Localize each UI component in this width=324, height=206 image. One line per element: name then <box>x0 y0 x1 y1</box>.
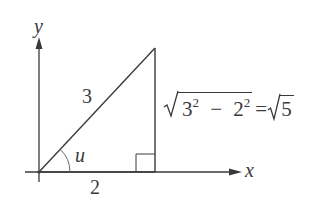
radicand-b: 2 <box>233 97 244 121</box>
exponent-a: 2 <box>193 95 200 110</box>
x-axis-arrow-icon <box>229 169 242 176</box>
opposite-side-formula: 32 − 22 = 5 <box>163 92 294 120</box>
right-angle-marker <box>136 154 155 172</box>
origin-point <box>37 170 40 173</box>
exponent-b: 2 <box>244 95 251 110</box>
result-radicand: 5 <box>281 97 292 121</box>
equals-sign: = <box>255 99 267 120</box>
radicand-a: 3 <box>182 97 193 121</box>
angle-arc <box>60 149 70 172</box>
angle-label: u <box>75 145 85 165</box>
hypotenuse <box>39 48 155 172</box>
radical-expression: 32 − 22 <box>163 92 252 120</box>
radical-sign-icon <box>163 90 179 118</box>
result-radical: 5 <box>267 95 294 120</box>
adjacent-label: 2 <box>90 177 100 197</box>
hypotenuse-label: 3 <box>82 86 92 106</box>
y-axis-label: y <box>34 16 43 36</box>
y-axis-arrow-icon <box>36 37 43 49</box>
minus-sign: − <box>210 97 222 121</box>
x-axis-label: x <box>245 160 254 180</box>
radical-sign-icon <box>267 93 281 121</box>
